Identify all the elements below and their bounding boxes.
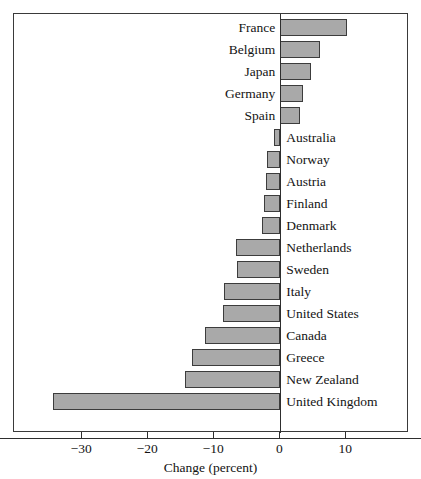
x-tick (147, 432, 148, 438)
plot-frame: FranceBelgiumJapanGermanySpainAustraliaN… (13, 13, 408, 432)
x-tick (213, 432, 214, 438)
bar-row: Finland (14, 193, 407, 215)
bar (236, 239, 280, 256)
bar (267, 151, 280, 168)
bar-category-label: Denmark (286, 216, 407, 235)
bar-category-label: Sweden (286, 260, 407, 279)
bar (280, 107, 300, 124)
bar (223, 305, 280, 322)
bar-category-label: United Kingdom (286, 392, 407, 411)
bar-category-label: New Zealand (286, 370, 407, 389)
bar-row: Belgium (14, 39, 407, 61)
bar-category-label: Belgium (14, 40, 275, 59)
bar-row: Italy (14, 281, 407, 303)
x-tick (81, 432, 82, 438)
bar-category-label: Australia (286, 128, 407, 147)
bar-row: Denmark (14, 215, 407, 237)
bar-category-label: Italy (286, 282, 407, 301)
bar (280, 85, 303, 102)
bar-category-label: United States (286, 304, 407, 323)
bar-category-label: Canada (286, 326, 407, 345)
x-axis-title: Change (percent) (0, 460, 421, 476)
zero-reference-line (280, 14, 281, 433)
bar-category-label: Spain (14, 106, 275, 125)
bar-row: Japan (14, 61, 407, 83)
x-axis-line (0, 438, 421, 439)
bar (262, 217, 280, 234)
bar-category-label: Norway (286, 150, 407, 169)
bar-category-label: France (14, 18, 275, 37)
bar-row: United Kingdom (14, 391, 407, 413)
bar (53, 393, 281, 410)
bar (205, 327, 280, 344)
bar (264, 195, 281, 212)
bar (192, 349, 280, 366)
x-tick-label: 10 (339, 441, 353, 457)
bar (266, 173, 281, 190)
bar-row: Australia (14, 127, 407, 149)
bar-category-label: Greece (286, 348, 407, 367)
bar-category-label: Austria (286, 172, 407, 191)
x-tick (345, 432, 346, 438)
chart-figure: FranceBelgiumJapanGermanySpainAustraliaN… (0, 0, 421, 479)
bar-category-label: Japan (14, 62, 275, 81)
bar-row: Austria (14, 171, 407, 193)
bar-row: Greece (14, 347, 407, 369)
x-tick-label: −30 (71, 441, 92, 457)
bar-row: Germany (14, 83, 407, 105)
bar (280, 19, 347, 36)
bar-row: New Zealand (14, 369, 407, 391)
bar-category-label: Germany (14, 84, 275, 103)
x-tick-label: −10 (203, 441, 224, 457)
x-tick (279, 432, 280, 438)
bar-row: Canada (14, 325, 407, 347)
bar (280, 41, 320, 58)
bar (280, 63, 310, 80)
bar-row: Norway (14, 149, 407, 171)
bar-category-label: Finland (286, 194, 407, 213)
x-tick-label: −20 (137, 441, 158, 457)
bar (185, 371, 281, 388)
bar-row: Sweden (14, 259, 407, 281)
bar-row: United States (14, 303, 407, 325)
bar (224, 283, 281, 300)
bar-category-label: Netherlands (286, 238, 407, 257)
bar (237, 261, 281, 278)
bar-row: Spain (14, 105, 407, 127)
x-tick-label: 0 (276, 441, 283, 457)
bar-row: France (14, 17, 407, 39)
bar-row: Netherlands (14, 237, 407, 259)
